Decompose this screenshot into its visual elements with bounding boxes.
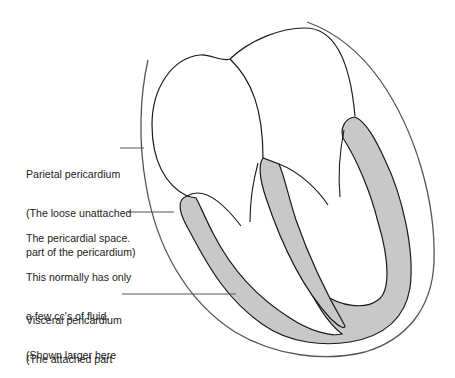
septum-band — [260, 158, 345, 328]
label-visceral-pericardium: Visceral pericardium (The attached part … — [26, 288, 122, 378]
label-line: Visceral pericardium — [26, 314, 122, 327]
label-line: The pericardial space. — [26, 232, 131, 245]
label-line: (The attached part — [26, 353, 122, 366]
label-line: This normally has only — [26, 271, 131, 284]
atrial-septum — [230, 59, 263, 158]
tricuspid-leaflet-b — [250, 163, 258, 222]
mitral-leaflet-b — [339, 130, 344, 197]
right-atrium-outline — [152, 55, 230, 196]
left-atrium-outline — [230, 28, 355, 116]
label-line: Parietal pericardium — [26, 168, 136, 181]
